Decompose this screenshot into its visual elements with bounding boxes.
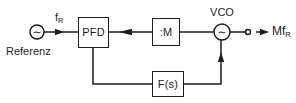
arrowhead-feedback-icon [119,29,132,35]
sine-icon: ∼ [32,26,41,39]
pll-block-diagram: ∼ ∼ PFD :M F(s) fR Referenz VCO MfR [0,0,296,103]
wire-filter-to-vco [184,40,221,84]
arrowhead-output-icon [260,29,269,35]
output-terminal-icon [246,30,251,35]
divider-block: :M [152,18,180,46]
pfd-block: PFD [78,17,109,48]
output-frequency-label: MfR [272,25,291,39]
sine-icon: ∼ [217,26,226,39]
vco-label: VCO [206,7,238,18]
wire-pfd-to-filter [93,48,152,84]
input-frequency-sub: R [58,16,63,25]
output-frequency-sub: R [285,30,290,39]
input-frequency-label: fR [55,12,63,25]
arrowhead-input-icon [55,29,64,35]
filter-block: F(s) [152,71,184,97]
reference-label: Referenz [6,46,51,57]
output-frequency-main: Mf [272,24,285,38]
arrowhead-tune-icon [218,52,224,62]
